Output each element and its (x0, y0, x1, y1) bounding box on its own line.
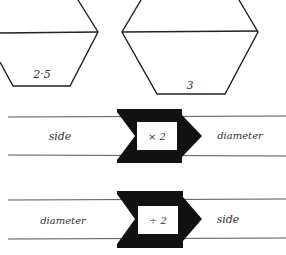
function-machine-divide: ÷ 2 diameter side (8, 191, 286, 248)
machine-1-operation: × 2 (148, 131, 166, 142)
hexagon-large: 3 (122, 0, 258, 94)
function-machine-multiply: × 2 side diameter (8, 109, 286, 163)
hexagon-small: 2·5 (0, 0, 98, 86)
machine-2-operation: ÷ 2 (149, 215, 167, 226)
hexagon-large-diameter-line (122, 31, 258, 32)
machine-2-output-label: side (217, 213, 240, 226)
machine-2-input-label: diameter (40, 215, 87, 226)
machine-1-input-label: side (49, 130, 72, 143)
hexagon-small-side-label: 2·5 (32, 68, 51, 81)
diagram-canvas: 2·5 3 × 2 side diameter ÷ 2 diameter sid… (0, 0, 286, 255)
machine-1-output-label: diameter (217, 130, 264, 141)
hexagon-small-diameter-line (0, 32, 98, 33)
hexagon-large-side-label: 3 (187, 79, 194, 92)
